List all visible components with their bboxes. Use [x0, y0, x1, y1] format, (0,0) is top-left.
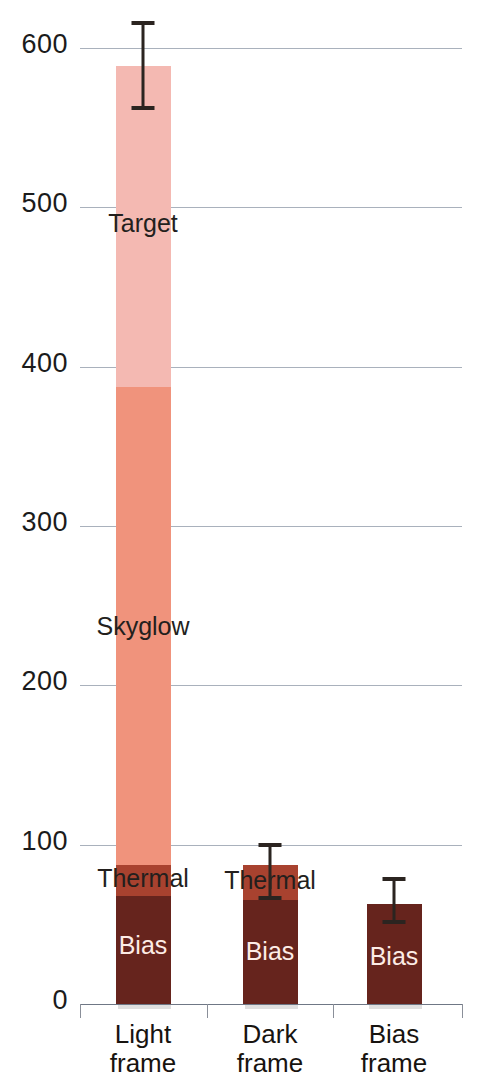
- error-bar-cap-bottom: [383, 920, 406, 924]
- segment-label-target: Target: [108, 209, 177, 238]
- segment-label-thermal: Thermal: [97, 864, 189, 893]
- ytick-label-500: 500: [0, 188, 68, 219]
- ytick-label-200: 200: [0, 666, 68, 697]
- segment-label-bias: Bias: [370, 942, 419, 971]
- x-category-label-dark-frame: Darkframe: [200, 1020, 340, 1078]
- x-category-label-line: Light: [73, 1020, 213, 1049]
- x-category-label-line: frame: [200, 1049, 340, 1078]
- category-tick-1: [207, 1004, 208, 1018]
- category-tick-3: [462, 1004, 463, 1018]
- ytick-label-0: 0: [0, 985, 68, 1016]
- error-bar-cap-top: [132, 21, 155, 25]
- error-bar-line: [393, 877, 396, 925]
- x-category-label-light-frame: Lightframe: [73, 1020, 213, 1078]
- error-bar-cap-top: [383, 877, 406, 881]
- error-bar-line: [142, 21, 145, 110]
- error-bar-cap-top: [259, 843, 282, 847]
- category-tick-0: [80, 1004, 81, 1018]
- x-category-label-line: frame: [73, 1049, 213, 1078]
- x-category-label-bias-frame: Biasframe: [324, 1020, 464, 1078]
- segment-label-bias: Bias: [119, 931, 168, 960]
- error-bar-line: [269, 843, 272, 900]
- category-tick-2: [333, 1004, 334, 1018]
- bar-shadow: [369, 1005, 422, 1009]
- ytick-label-400: 400: [0, 348, 68, 379]
- bar-shadow: [245, 1005, 298, 1009]
- x-category-label-line: frame: [324, 1049, 464, 1078]
- x-category-label-line: Dark: [200, 1020, 340, 1049]
- ytick-label-100: 100: [0, 826, 68, 857]
- error-bar-cap-bottom: [259, 896, 282, 900]
- error-bar-cap-bottom: [132, 106, 155, 110]
- bar-shadow: [118, 1005, 171, 1009]
- ytick-label-300: 300: [0, 507, 68, 538]
- ytick-label-600: 600: [0, 29, 68, 60]
- gridline-600: [80, 48, 462, 49]
- x-category-label-line: Bias: [324, 1020, 464, 1049]
- segment-label-skyglow: Skyglow: [96, 612, 189, 641]
- segment-label-bias: Bias: [246, 937, 295, 966]
- stacked-bar-chart: 0100200300400500600TargetSkyglowThermalB…: [0, 0, 478, 1090]
